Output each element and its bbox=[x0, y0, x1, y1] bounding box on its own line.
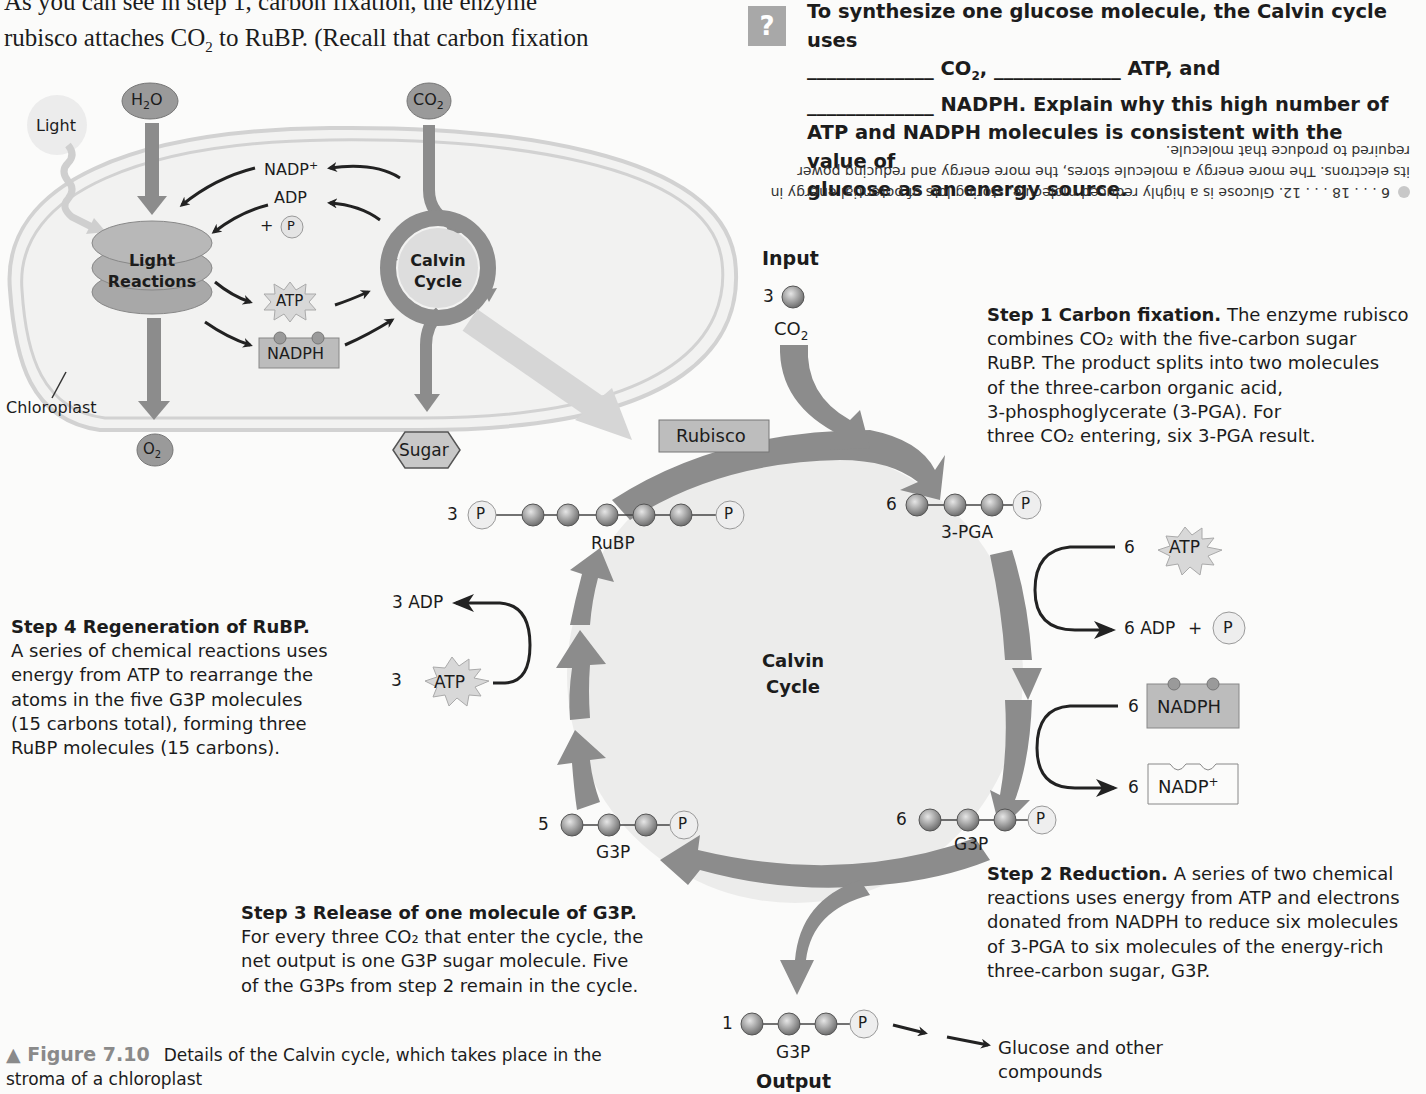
nadph-nadp-hook bbox=[1037, 706, 1118, 788]
g3p-output-count: 1 bbox=[722, 1013, 733, 1033]
pga-count: 6 bbox=[886, 494, 897, 514]
g3p-six-label: G3P bbox=[954, 834, 988, 854]
pga-p: P bbox=[1021, 495, 1030, 513]
rubp-label: RuBP bbox=[591, 533, 635, 553]
output-label: Output bbox=[756, 1070, 831, 1092]
atp-adp-hook bbox=[1035, 547, 1115, 630]
calvin-cycle-center-label: CalvinCycle bbox=[745, 648, 841, 700]
figure-caption: ▲ Figure 7.10Details of the Calvin cycle… bbox=[6, 1042, 646, 1091]
g3p-five-count: 5 bbox=[538, 814, 549, 834]
sugar-label: Sugar bbox=[399, 440, 449, 460]
g3p-five-p: P bbox=[678, 815, 687, 833]
g3p-output-label: G3P bbox=[776, 1042, 810, 1062]
plus-6: + bbox=[1188, 618, 1202, 638]
chloroplast-label: Chloroplast bbox=[6, 398, 97, 417]
output-arrow-2 bbox=[947, 1037, 988, 1045]
rubp-p2: P bbox=[724, 505, 733, 523]
input-label: Input bbox=[762, 247, 819, 269]
pga-label: 3-PGA bbox=[941, 522, 993, 542]
step3-description: Step 3 Release of one molecule of G3P. F… bbox=[241, 901, 681, 998]
light-reactions-label: LightReactions bbox=[106, 250, 198, 292]
atp-count-3: 3 bbox=[391, 670, 402, 690]
g3p-five-label: G3P bbox=[596, 842, 630, 862]
nadph-label-6: NADPH bbox=[1157, 696, 1221, 717]
glucose-label: Glucose and othercompounds bbox=[998, 1036, 1163, 1084]
o2-label: O2 bbox=[143, 440, 161, 460]
plus-label: + bbox=[260, 216, 273, 235]
adp-label-6: 6 ADP bbox=[1124, 618, 1175, 638]
atp-label-3: ATP bbox=[434, 672, 465, 692]
h2o-label: H2O bbox=[131, 90, 163, 112]
nadp-label-6: NADP+ bbox=[1158, 775, 1219, 797]
step2-description: Step 2 Reduction. A series of two chemic… bbox=[987, 862, 1423, 983]
phosphate-label-6: P bbox=[1223, 618, 1233, 637]
calvin-cycle-label-small: CalvinCycle bbox=[406, 250, 470, 292]
co2-label: CO2 bbox=[413, 90, 444, 112]
light-label: Light bbox=[36, 116, 76, 135]
nadp-count-6: 6 bbox=[1128, 777, 1139, 797]
step4-description: Step 4 Regeneration of RuBP. A series of… bbox=[11, 615, 371, 760]
rubp-count: 3 bbox=[447, 504, 458, 524]
nadp-plus-label: NADP+ bbox=[264, 159, 318, 179]
adp-label: ADP bbox=[274, 188, 307, 207]
h2o-arrow bbox=[145, 123, 159, 199]
g3p-six-count: 6 bbox=[896, 809, 907, 829]
atp-label-6: ATP bbox=[1169, 537, 1200, 557]
nadph-label: NADPH bbox=[267, 344, 324, 363]
input-count: 3 bbox=[763, 286, 774, 306]
atp-label: ATP bbox=[276, 292, 303, 310]
step1-description: Step 1 Carbon fixation. The enzyme rubis… bbox=[987, 303, 1423, 448]
rubp-p1: P bbox=[476, 505, 485, 523]
input-co2-label: CO2 bbox=[774, 318, 808, 343]
phosphate-label: P bbox=[287, 218, 295, 233]
nadph-count-6: 6 bbox=[1128, 696, 1139, 716]
rubisco-label: Rubisco bbox=[676, 425, 746, 446]
g3p-six-p: P bbox=[1036, 810, 1045, 828]
adp-label-3: 3 ADP bbox=[392, 592, 443, 612]
g3p-output-p: P bbox=[858, 1014, 867, 1032]
figure-number: ▲ Figure 7.10 bbox=[6, 1043, 150, 1065]
o2-arrow bbox=[147, 318, 161, 404]
atp-count-6: 6 bbox=[1124, 537, 1135, 557]
co2-carbon-ball bbox=[782, 286, 804, 308]
output-arrow-1 bbox=[893, 1025, 925, 1033]
